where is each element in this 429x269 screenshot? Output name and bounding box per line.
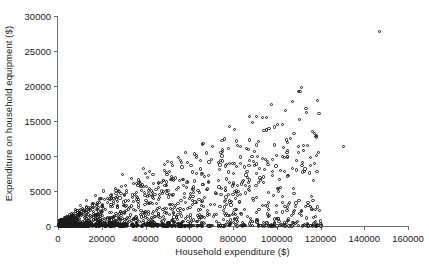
data-point — [139, 184, 142, 187]
data-point — [132, 182, 135, 185]
y-axis-tick — [54, 16, 58, 17]
data-point — [261, 204, 264, 207]
data-point — [243, 165, 246, 168]
data-point — [277, 190, 280, 193]
data-point — [94, 194, 97, 197]
data-point — [143, 203, 146, 206]
data-point — [251, 220, 254, 223]
data-point — [149, 221, 152, 224]
data-point — [300, 86, 303, 89]
data-point — [80, 223, 83, 226]
x-axis-tick-label: 100000 — [261, 233, 293, 244]
data-point — [147, 212, 150, 215]
data-point — [113, 224, 116, 227]
data-point — [181, 178, 184, 181]
data-point — [311, 199, 314, 202]
data-point — [201, 183, 204, 186]
data-point — [131, 193, 134, 196]
data-point — [318, 209, 321, 212]
data-point — [217, 224, 220, 227]
data-point — [239, 162, 242, 165]
data-point — [251, 197, 254, 200]
data-point — [166, 160, 169, 163]
plot-area: 0500010000150002000025000300000200004000… — [57, 16, 408, 227]
data-point — [91, 202, 94, 205]
y-axis-tick — [54, 121, 58, 122]
data-point — [152, 182, 155, 185]
data-point — [224, 186, 227, 189]
data-point — [240, 182, 243, 185]
data-point — [306, 204, 309, 207]
data-point — [155, 202, 158, 205]
data-point — [126, 224, 129, 227]
data-point — [228, 181, 231, 184]
data-point — [267, 214, 270, 217]
data-point — [236, 184, 239, 187]
data-point — [226, 214, 229, 217]
data-point — [63, 221, 66, 224]
x-axis-title: Household expenditure ($) — [57, 246, 408, 257]
data-point — [247, 164, 250, 167]
data-point — [168, 213, 171, 216]
data-point — [106, 217, 109, 220]
data-point — [281, 123, 284, 126]
data-point — [232, 221, 235, 224]
data-point — [269, 224, 272, 227]
y-axis-tick-label: 10000 — [25, 151, 51, 162]
data-point — [262, 175, 265, 178]
data-point — [247, 148, 250, 151]
data-point — [218, 163, 221, 166]
x-axis-tick-label: 60000 — [176, 233, 202, 244]
data-point — [176, 208, 179, 211]
data-point — [273, 217, 276, 220]
data-point — [285, 209, 288, 212]
data-point — [342, 145, 345, 148]
data-point — [255, 143, 258, 146]
data-point — [180, 165, 183, 168]
data-point — [218, 168, 221, 171]
data-point — [302, 144, 305, 147]
x-axis-tick-label: 120000 — [305, 233, 337, 244]
data-point — [180, 214, 183, 217]
data-point — [223, 205, 226, 208]
data-point — [234, 197, 237, 200]
data-point — [294, 201, 297, 204]
data-point — [292, 187, 295, 190]
data-point — [219, 193, 222, 196]
data-point — [121, 173, 124, 176]
data-point — [195, 156, 198, 159]
data-point — [265, 116, 268, 119]
data-point — [271, 170, 274, 173]
data-point — [163, 211, 166, 214]
data-point — [305, 216, 308, 219]
data-point — [239, 193, 242, 196]
x-axis-tick — [408, 226, 409, 230]
data-point — [227, 147, 230, 150]
data-point — [120, 185, 123, 188]
data-point — [94, 215, 97, 218]
data-point — [205, 188, 208, 191]
data-point — [270, 103, 273, 106]
data-point — [175, 188, 178, 191]
data-point — [223, 137, 226, 140]
data-point — [151, 202, 154, 205]
data-point — [306, 144, 309, 147]
data-point — [248, 159, 251, 162]
data-point — [281, 210, 284, 213]
data-point — [248, 189, 251, 192]
x-axis-tick — [364, 226, 365, 230]
x-axis-tick-label: 0 — [55, 233, 60, 244]
data-point — [185, 186, 188, 189]
y-axis-tick-label: 15000 — [25, 116, 51, 127]
data-point — [107, 224, 110, 227]
y-axis-tick — [54, 191, 58, 192]
data-point — [193, 152, 196, 155]
data-point — [297, 224, 300, 227]
data-point — [140, 224, 143, 227]
data-point — [109, 194, 112, 197]
data-point — [183, 192, 186, 195]
data-point — [309, 164, 312, 167]
x-axis-tick-label: 20000 — [89, 233, 115, 244]
data-point — [124, 184, 127, 187]
data-point — [221, 148, 224, 151]
